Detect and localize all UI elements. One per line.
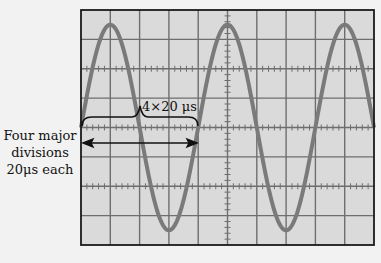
- divisions-label-line3: 20μs each: [0, 161, 80, 178]
- period-label: 4×20 μs: [142, 99, 197, 114]
- divisions-label-line1: Four major: [0, 127, 80, 144]
- divisions-label-line2: divisions: [0, 144, 80, 161]
- divisions-label: Four major divisions 20μs each: [0, 127, 80, 178]
